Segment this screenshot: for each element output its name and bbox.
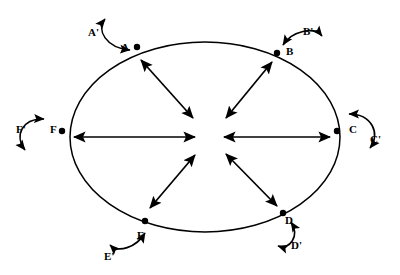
- vertex-label-a: A: [121, 42, 129, 53]
- vertex-dot-c[interactable]: [334, 128, 340, 134]
- radial-arrow-d: [226, 154, 277, 206]
- vertex-label-c: C: [349, 124, 357, 135]
- diagram-canvas: A B C D E F A' B' C' D' E' F': [0, 0, 400, 275]
- loop-label-f-prime: F': [16, 124, 26, 135]
- vertex-dot-b[interactable]: [274, 50, 280, 56]
- self-loop-group: [20, 19, 375, 249]
- vertex-label-b: B: [286, 46, 293, 57]
- vertex-dot-f[interactable]: [59, 128, 65, 134]
- loop-label-e-prime: E': [104, 251, 114, 262]
- loop-label-c-prime: C': [370, 134, 381, 145]
- vertex-dot-a[interactable]: [134, 44, 140, 50]
- radial-arrow-e: [150, 155, 195, 208]
- loop-label-b-prime: B': [303, 26, 313, 37]
- radial-arrow-group: [74, 60, 330, 208]
- vertex-label-f: F: [50, 124, 57, 135]
- loop-label-d-prime: D': [291, 240, 302, 251]
- radial-arrow-b: [226, 62, 272, 118]
- vertex-label-e: E: [137, 230, 144, 241]
- loop-label-a-prime: A': [88, 27, 99, 38]
- diagram-svg: [0, 0, 400, 275]
- vertex-label-d: D: [285, 215, 293, 226]
- radial-arrow-a: [141, 60, 193, 118]
- vertex-dot-e[interactable]: [142, 218, 148, 224]
